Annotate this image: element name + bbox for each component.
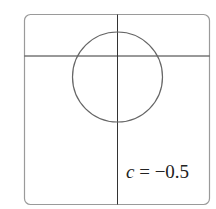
label-equals: =	[134, 161, 154, 182]
graph-figure: c = −0.5	[0, 0, 216, 209]
label-value: −0.5	[155, 161, 189, 182]
parameter-label: c = −0.5	[126, 161, 189, 182]
